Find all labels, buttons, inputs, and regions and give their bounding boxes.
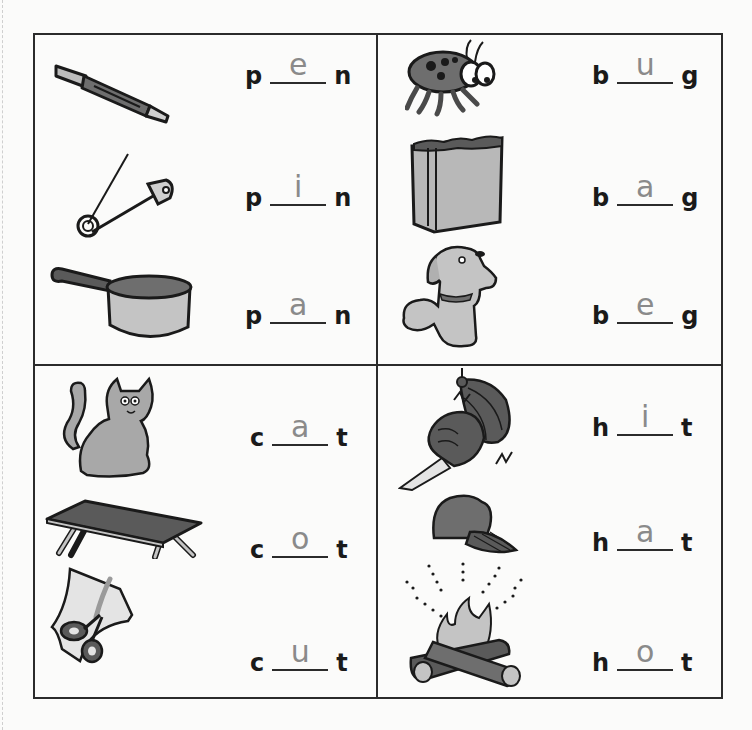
first-letter: c xyxy=(250,536,264,564)
last-letter: n xyxy=(334,62,351,90)
answer-blank[interactable]: a xyxy=(617,180,673,206)
word-beg: beg xyxy=(592,298,698,330)
first-letter: p xyxy=(245,302,262,330)
answer-blank[interactable]: a xyxy=(272,420,328,446)
cot-icon xyxy=(45,497,205,559)
last-letter: g xyxy=(681,302,698,330)
answer-blank[interactable]: o xyxy=(272,532,328,558)
first-letter: b xyxy=(592,184,609,212)
cat-icon xyxy=(55,375,160,483)
answer-blank[interactable]: i xyxy=(617,410,673,436)
last-letter: g xyxy=(681,62,698,90)
word-cut: cut xyxy=(250,645,348,677)
scissors-cutting-paper-icon xyxy=(50,565,165,665)
ladybug-icon xyxy=(405,38,500,118)
handwritten-answer: a xyxy=(617,517,673,547)
last-letter: t xyxy=(336,536,347,564)
first-letter: h xyxy=(592,649,609,677)
answer-blank[interactable]: u xyxy=(617,58,673,84)
last-letter: t xyxy=(336,424,347,452)
handwritten-answer: i xyxy=(617,402,673,432)
answer-blank[interactable]: i xyxy=(270,180,326,206)
pan-icon xyxy=(48,265,200,345)
last-letter: n xyxy=(334,302,351,330)
first-letter: b xyxy=(592,62,609,90)
first-letter: h xyxy=(592,414,609,442)
word-bag: bag xyxy=(592,180,698,212)
answer-blank[interactable]: u xyxy=(272,645,328,671)
answer-blank[interactable]: e xyxy=(270,58,326,84)
page-edge-dashes xyxy=(2,0,3,730)
last-letter: t xyxy=(681,414,692,442)
first-letter: c xyxy=(250,424,264,452)
handwritten-answer: e xyxy=(270,50,326,80)
safety-pin-icon xyxy=(70,150,180,240)
handwritten-answer: o xyxy=(617,637,673,667)
last-letter: t xyxy=(681,529,692,557)
handwritten-answer: a xyxy=(270,290,326,320)
fist-hitting-bag-icon xyxy=(398,366,526,491)
handwritten-answer: i xyxy=(270,172,326,202)
first-letter: p xyxy=(245,184,262,212)
handwritten-answer: a xyxy=(272,412,328,442)
word-hot: hot xyxy=(592,645,693,677)
last-letter: n xyxy=(334,184,351,212)
first-letter: h xyxy=(592,529,609,557)
cap-icon xyxy=(430,492,520,557)
paper-bag-icon xyxy=(408,134,506,234)
dog-begging-icon xyxy=(400,242,505,350)
campfire-icon xyxy=(403,558,528,690)
answer-blank[interactable]: a xyxy=(270,298,326,324)
word-pen: pen xyxy=(245,58,351,90)
handwritten-answer: u xyxy=(617,50,673,80)
handwritten-answer: o xyxy=(272,524,328,554)
word-cot: cot xyxy=(250,532,348,564)
last-letter: t xyxy=(681,649,692,677)
grid-divider-horizontal xyxy=(35,364,721,366)
word-pan: pan xyxy=(245,298,351,330)
pen-icon xyxy=(50,60,175,125)
answer-blank[interactable]: e xyxy=(617,298,673,324)
word-bug: bug xyxy=(592,58,698,90)
answer-blank[interactable]: o xyxy=(617,645,673,671)
word-cat: cat xyxy=(250,420,348,452)
first-letter: b xyxy=(592,302,609,330)
word-hit: hit xyxy=(592,410,693,442)
word-hat: hat xyxy=(592,525,693,557)
answer-blank[interactable]: a xyxy=(617,525,673,551)
handwritten-answer: a xyxy=(617,172,673,202)
first-letter: p xyxy=(245,62,262,90)
handwritten-answer: u xyxy=(272,637,328,667)
last-letter: g xyxy=(681,184,698,212)
first-letter: c xyxy=(250,649,264,677)
handwritten-answer: e xyxy=(617,290,673,320)
grid-divider-vertical xyxy=(376,35,378,697)
last-letter: t xyxy=(336,649,347,677)
word-pin: pin xyxy=(245,180,351,212)
